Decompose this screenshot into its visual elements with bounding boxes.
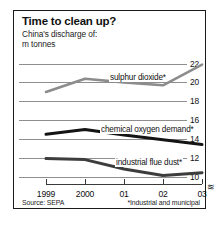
chart-card: Time to clean up? China's discharge of: … [13,10,206,209]
series-label-sulphur-dioxide: sulphur dioxide* [109,73,167,82]
footnote-label: *Industrial and municipal [127,199,200,206]
plot-area: 22201816141210 sulphur dioxide* chemical… [14,58,205,184]
x-tick-2000 [85,179,86,184]
x-tick-label-2000: 2000 [76,189,94,199]
x-tick-02 [163,179,164,184]
chart-title: Time to clean up? [22,15,200,28]
source-label: Source: SEPA [22,199,64,206]
x-tick-label-03: 03 [197,189,206,199]
x-tick-label-01: 01 [119,189,128,199]
x-tick-03 [202,179,203,184]
chart-subtitle-line-2: m tonnes [22,40,200,50]
x-tick-label-02: 02 [158,189,167,199]
series-label-industrial-flue-dust: industrial flue dust* [115,158,183,167]
chart-footer: Source: SEPA *Industrial and municipal [14,199,205,211]
x-tick-label-1999: 1999 [37,189,55,199]
axis-break-icon: ≋ [207,182,215,192]
x-tick-01 [124,179,125,184]
x-tick-1999 [46,179,47,184]
series-label-chemical-oxygen-demand: chemical oxygen demand* [100,125,195,134]
x-axis-line [46,184,202,185]
chart-header: Time to clean up? China's discharge of: … [22,15,200,49]
